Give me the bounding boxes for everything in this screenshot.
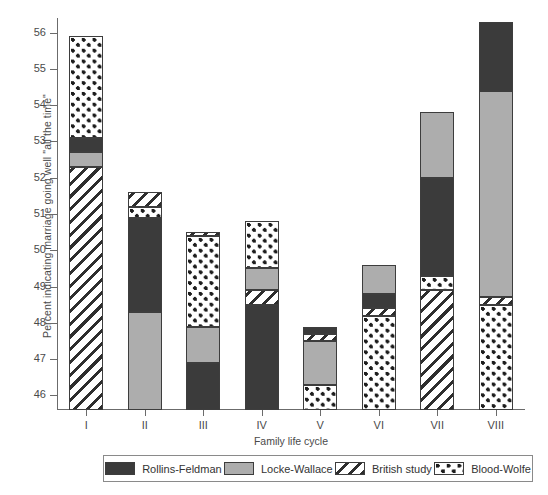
legend-label-blood: Blood-Wolfe (471, 463, 531, 475)
bar-segment (245, 290, 279, 305)
bar-ii (128, 192, 162, 410)
legend-swatch-rollins (105, 462, 135, 475)
y-axis-line (57, 18, 58, 410)
x-tick (86, 410, 87, 416)
legend-swatch-british (335, 462, 365, 475)
x-tick-label-iv: IV (257, 419, 267, 431)
y-tick-label: 55 (34, 62, 46, 74)
bar-segment (420, 112, 454, 177)
y-tick: 54 (50, 105, 57, 106)
bar-iv (245, 221, 279, 410)
bar-segment (186, 232, 220, 236)
x-tick-label-i: I (85, 419, 88, 431)
y-tick-label: 56 (34, 26, 46, 38)
chart-figure: Percent indicating marriage going well "… (0, 0, 548, 495)
bar-segment (186, 363, 220, 410)
bar-segment (479, 305, 513, 410)
x-tick (379, 410, 380, 416)
y-tick-label: 48 (34, 316, 46, 328)
bar-segment (303, 327, 337, 334)
y-tick: 46 (50, 395, 57, 396)
chart-legend: Rollins-FeldmanLocke-WallaceBritish stud… (103, 455, 533, 482)
y-tick-label: 49 (34, 280, 46, 292)
legend-item-british[interactable]: British study (335, 462, 432, 475)
x-tick (262, 410, 263, 416)
x-tick (145, 410, 146, 416)
bar-segment (479, 297, 513, 304)
x-tick-label-vii: VII (431, 419, 444, 431)
x-tick-label-iii: III (199, 419, 208, 431)
bar-segment (420, 276, 454, 291)
x-tick (203, 410, 204, 416)
y-tick: 48 (50, 323, 57, 324)
bar-i (69, 36, 103, 410)
bar-segment (362, 294, 396, 309)
y-tick: 50 (50, 250, 57, 251)
y-tick-label: 47 (34, 352, 46, 364)
y-tick-label: 46 (34, 388, 46, 400)
x-axis-title: Family life cycle (57, 435, 525, 447)
bar-vii (420, 112, 454, 410)
y-tick: 53 (50, 141, 57, 142)
bar-segment (186, 236, 220, 327)
bar-segment (362, 316, 396, 410)
bar-segment (479, 22, 513, 91)
legend-label-rollins: Rollins-Feldman (142, 463, 221, 475)
bar-segment (420, 290, 454, 410)
y-tick: 56 (50, 33, 57, 34)
bar-v (303, 327, 337, 410)
y-tick-label: 50 (34, 243, 46, 255)
x-tick (496, 410, 497, 416)
y-tick: 47 (50, 359, 57, 360)
legend-label-locke: Locke-Wallace (261, 463, 333, 475)
x-tick-label-ii: II (142, 419, 148, 431)
x-tick-label-v: V (317, 419, 324, 431)
legend-item-rollins[interactable]: Rollins-Feldman (105, 462, 221, 475)
bar-segment (128, 207, 162, 218)
bar-segment (245, 305, 279, 410)
bar-segment (245, 268, 279, 290)
bar-segment (420, 178, 454, 276)
bar-viii (479, 22, 513, 410)
legend-swatch-blood (434, 462, 464, 475)
y-tick: 52 (50, 178, 57, 179)
legend-item-locke[interactable]: Locke-Wallace (224, 462, 333, 475)
x-tick (320, 410, 321, 416)
plot-area: 4647484950515253545556 IIIIIIIVVVIVIIVII… (57, 18, 525, 410)
bar-segment (303, 385, 337, 410)
bar-segment (479, 91, 513, 298)
x-tick-label-viii: VIII (487, 419, 504, 431)
bar-segment (128, 312, 162, 410)
legend-item-blood[interactable]: Blood-Wolfe (434, 462, 531, 475)
bar-segment (303, 334, 337, 341)
bar-segment (128, 218, 162, 312)
bar-segment (69, 138, 103, 153)
legend-label-british: British study (372, 463, 432, 475)
bar-segment (303, 341, 337, 385)
bar-segment (245, 221, 279, 268)
x-tick (437, 410, 438, 416)
bar-segment (186, 327, 220, 363)
bar-segment (69, 152, 103, 167)
y-tick: 51 (50, 214, 57, 215)
bar-vi (362, 265, 396, 410)
y-tick-label: 54 (34, 98, 46, 110)
y-tick-label: 51 (34, 207, 46, 219)
y-tick: 55 (50, 69, 57, 70)
y-tick: 49 (50, 287, 57, 288)
y-tick-label: 52 (34, 171, 46, 183)
bar-segment (362, 308, 396, 315)
legend-swatch-locke (224, 462, 254, 475)
bar-iii (186, 232, 220, 410)
bar-segment (128, 192, 162, 207)
bar-segment (362, 265, 396, 294)
y-tick-label: 53 (34, 134, 46, 146)
bar-segment (69, 167, 103, 410)
x-tick-label-vi: VI (374, 419, 384, 431)
bar-segment (69, 36, 103, 138)
